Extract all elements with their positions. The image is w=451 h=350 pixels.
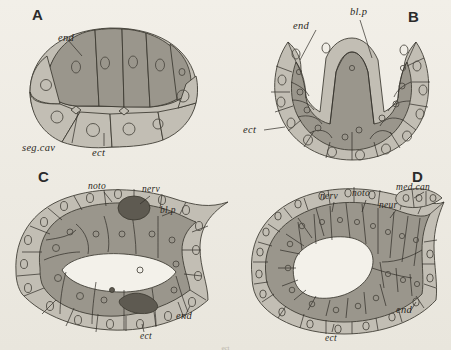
label-c-ect: ect: [140, 331, 152, 341]
panel-d-drawing: [251, 187, 444, 334]
label-a-ect: ect: [92, 147, 105, 158]
label-c-blp: bl.p: [160, 205, 176, 215]
label-b-blp: bl.p: [350, 6, 367, 17]
embryology-figure: .cell{stroke:#3a372f;stroke-width:.85;} …: [0, 0, 451, 350]
cut-off-caption: ect: [0, 344, 451, 350]
figure-drawing: .cell{stroke:#3a372f;stroke-width:.85;} …: [0, 0, 451, 350]
panel-a-drawing: [30, 28, 198, 148]
label-d-ect: ect: [325, 333, 337, 343]
label-d-medcan: med.can: [396, 182, 430, 192]
label-d-neur: neur: [379, 200, 398, 210]
panel-b-drawing: [264, 20, 430, 160]
label-c-noto: noto: [88, 181, 106, 191]
panel-letter-b: B: [408, 8, 419, 25]
panel-letter-c: C: [38, 168, 49, 185]
label-d-end: end: [396, 304, 412, 315]
label-c-nerv: nerv: [142, 184, 160, 194]
label-d-nerv: nerv: [320, 191, 338, 201]
panel-letter-a: A: [32, 6, 43, 23]
label-b-ect: ect: [243, 124, 256, 135]
label-a-segcav: seg.cav: [22, 142, 55, 153]
label-a-end: end: [58, 32, 74, 43]
label-d-noto: noto: [352, 188, 370, 198]
label-c-end: end: [176, 310, 192, 321]
panel-c-drawing: [16, 189, 228, 332]
label-b-end: end: [293, 20, 309, 31]
